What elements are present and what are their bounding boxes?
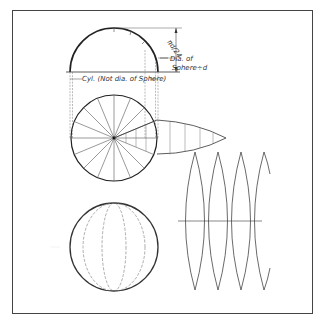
front-view-semicircle: πd/24 Dia. of Sphere÷d Cyl. (Not dia. of… [66,28,208,83]
cylinder-label: Cyl. (Not dia. of Sphere) [82,75,167,83]
sphere-development-drawing: πd/24 Dia. of Sphere÷d Cyl. (Not dia. of… [0,0,322,322]
single-gore-development [114,120,226,155]
dia-of-sphere-label-2: Sphere÷d [172,64,208,72]
sphere-view [50,203,158,291]
dia-of-sphere-label-1: Dia. of [170,55,194,63]
gore-pattern [178,152,270,290]
